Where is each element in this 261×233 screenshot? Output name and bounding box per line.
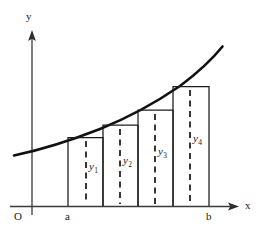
- rectangle-bar-2: [103, 125, 138, 206]
- x-axis: [10, 203, 239, 211]
- figure-canvas: [0, 0, 261, 233]
- origin-label: O: [14, 211, 22, 222]
- riemann-sum-figure: y x O a b y1 y2 y3 y4: [0, 0, 261, 233]
- y-axis-label: y: [26, 11, 32, 22]
- rectangle-bar-3: [138, 110, 173, 206]
- ordinate-label-3-sub: 3: [163, 151, 167, 160]
- ordinate-label-1-sub: 1: [94, 166, 98, 175]
- ordinate-label-4-sub: 4: [198, 138, 202, 147]
- y-axis: [28, 30, 36, 215]
- x-tick-label-a: a: [65, 211, 70, 222]
- ordinate-label-4: y4: [193, 133, 202, 144]
- rectangle-bar-4: [173, 87, 209, 207]
- ordinate-label-3: y3: [158, 146, 167, 157]
- x-tick-label-b: b: [206, 211, 212, 222]
- ordinate-label-2-sub: 2: [128, 160, 132, 169]
- x-axis-label: x: [245, 200, 251, 211]
- ordinate-label-1: y1: [89, 161, 98, 172]
- function-curve: [14, 47, 223, 156]
- ordinate-label-2: y2: [123, 155, 132, 166]
